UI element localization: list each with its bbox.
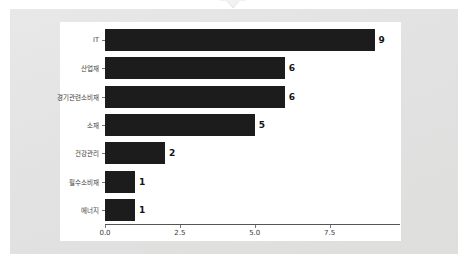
x-axis-tick-label: 7.5 bbox=[324, 229, 335, 237]
bar[interactable] bbox=[105, 199, 135, 221]
x-axis-line bbox=[105, 224, 400, 225]
y-axis-tick-mark bbox=[102, 210, 105, 211]
y-axis-tick-mark bbox=[102, 40, 105, 41]
x-axis-tick-label: 5.0 bbox=[249, 229, 260, 237]
x-axis-tick-mark bbox=[105, 225, 106, 228]
y-axis-tick-mark bbox=[102, 182, 105, 183]
bar-value-label: 1 bbox=[139, 205, 145, 215]
bar-row[interactable]: 6 bbox=[105, 57, 400, 79]
y-axis-category-label: 필수소비재 bbox=[69, 177, 99, 187]
bar-value-label: 6 bbox=[289, 92, 295, 102]
chevron-down-notch-icon bbox=[220, 0, 246, 9]
bar[interactable] bbox=[105, 29, 375, 51]
bar-value-label: 9 bbox=[379, 35, 385, 45]
screenshot-root: 9IT6산업재6경기관련소비재5소재2건강관리1필수소비재1에너지 0.02.5… bbox=[0, 0, 465, 263]
bar-chart-plot: 9IT6산업재6경기관련소비재5소재2건강관리1필수소비재1에너지 0.02.5… bbox=[60, 22, 401, 241]
bar-row[interactable]: 9 bbox=[105, 29, 400, 51]
y-axis-tick-mark bbox=[102, 97, 105, 98]
y-axis-category-label: 에너지 bbox=[81, 205, 99, 215]
y-axis-tick-mark bbox=[102, 125, 105, 126]
y-axis-category-label: 소재 bbox=[87, 120, 99, 130]
bar-value-label: 6 bbox=[289, 63, 295, 73]
x-axis-tick-mark bbox=[180, 225, 181, 228]
bar-row[interactable]: 2 bbox=[105, 142, 400, 164]
y-axis-category-label: 산업재 bbox=[81, 63, 99, 73]
bar-row[interactable]: 1 bbox=[105, 171, 400, 193]
y-axis-tick-mark bbox=[102, 68, 105, 69]
bar-value-label: 2 bbox=[169, 148, 175, 158]
top-white-band bbox=[0, 0, 465, 9]
bar-value-label: 1 bbox=[139, 177, 145, 187]
x-axis-tick-label: 0.0 bbox=[99, 229, 110, 237]
bar-value-label: 5 bbox=[259, 120, 265, 130]
bar[interactable] bbox=[105, 86, 285, 108]
bar[interactable] bbox=[105, 171, 135, 193]
bar-row[interactable]: 1 bbox=[105, 199, 400, 221]
bar-row[interactable]: 5 bbox=[105, 114, 400, 136]
bar[interactable] bbox=[105, 114, 255, 136]
y-axis-category-label: IT bbox=[93, 36, 99, 44]
y-axis-category-label: 경기관련소비재 bbox=[57, 92, 99, 102]
chart-card: 9IT6산업재6경기관련소비재5소재2건강관리1필수소비재1에너지 0.02.5… bbox=[60, 22, 401, 241]
y-axis-tick-mark bbox=[102, 153, 105, 154]
bar-row[interactable]: 6 bbox=[105, 86, 400, 108]
x-axis-tick-mark bbox=[255, 225, 256, 228]
x-axis-tick-mark bbox=[330, 225, 331, 228]
x-axis-tick-label: 2.5 bbox=[174, 229, 185, 237]
bar[interactable] bbox=[105, 57, 285, 79]
bar[interactable] bbox=[105, 142, 165, 164]
y-axis-category-label: 건강관리 bbox=[75, 148, 99, 158]
